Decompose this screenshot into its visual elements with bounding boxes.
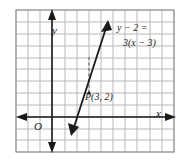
origin-label: O [34, 121, 42, 132]
point-p-label: P(3, 2) [85, 92, 113, 102]
equation-line-2: 3(x − 3) [123, 38, 156, 48]
coordinate-grid-figure: y x O P(3, 2) y − 2 = 3(x − 3) [0, 0, 187, 164]
equation-line-1: y − 2 = [117, 23, 147, 33]
coordinate-plane-svg [0, 0, 187, 164]
y-axis-label: y [52, 25, 57, 36]
x-axis-label: x [156, 108, 161, 119]
